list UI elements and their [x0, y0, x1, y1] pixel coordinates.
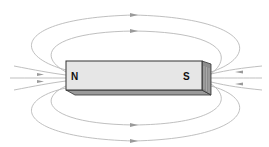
arrow-icon: [130, 29, 138, 33]
field-line-right-1: [211, 66, 262, 74]
arrow-icon: [235, 83, 243, 86]
south-pole-label: S: [183, 71, 190, 82]
arrow-icon: [37, 73, 44, 76]
magnet-front-face: [66, 61, 202, 90]
arrow-icon: [37, 80, 44, 83]
arrow-icon: [235, 71, 243, 74]
magnet-bottom-face: [66, 90, 211, 95]
arrow-icon: [130, 13, 138, 17]
arrow-icon: [130, 123, 138, 127]
arrow-icon: [130, 139, 138, 143]
bar-magnet-diagram: N S: [0, 0, 269, 147]
bar-magnet: N S: [66, 61, 211, 95]
north-pole-label: N: [71, 71, 78, 82]
